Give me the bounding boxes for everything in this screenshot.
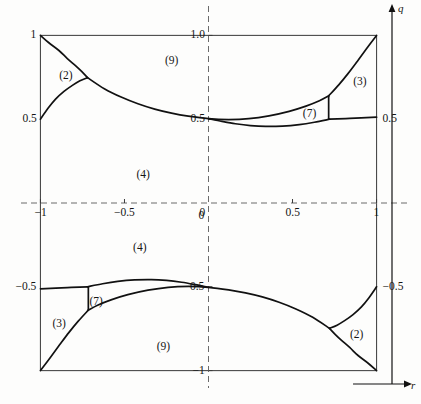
region-label-9: (2) <box>350 329 363 341</box>
region-diagram-figure: −1−0.500.511.00.50−0.5−110.5−0.50.5−0.5(… <box>0 0 421 404</box>
left-edge-label-2: −0.5 <box>15 281 36 293</box>
right-edge-label-1: −0.5 <box>383 281 404 293</box>
x-tick-label-4: 1 <box>374 207 380 219</box>
region-label-2: (3) <box>353 76 366 88</box>
x-tick-label-0: −1 <box>34 207 46 219</box>
left-edge-label-0: 1 <box>30 29 36 41</box>
y-tick-label-2: 0 <box>199 210 205 222</box>
region-label-8: (9) <box>157 341 170 353</box>
region-label-4: (4) <box>136 169 149 181</box>
y-tick-label-0: 1.0 <box>191 29 205 41</box>
curve-upper-left-ascending-branch <box>40 78 87 120</box>
curve-lower-right-descending-branch <box>330 287 377 329</box>
y-tick-label-1: 0.5 <box>191 113 205 125</box>
x-tick-label-3: 0.5 <box>286 207 300 219</box>
region-label-7: (3) <box>52 318 65 330</box>
curve-upper-right-edge-segment <box>330 117 377 119</box>
region-label-3: (7) <box>303 108 316 120</box>
plot-canvas <box>0 0 421 404</box>
right-edge-label-0: 0.5 <box>383 113 397 125</box>
y-axis-name: q <box>398 3 404 14</box>
curve-lower-left-edge-segment <box>40 287 87 289</box>
region-label-1: (9) <box>165 55 178 67</box>
region-label-5: (4) <box>133 242 146 254</box>
y-tick-label-4: −1 <box>193 365 205 377</box>
x-axis-name: r <box>411 380 415 391</box>
region-label-6: (7) <box>89 296 102 308</box>
region-label-0: (2) <box>59 70 72 82</box>
left-edge-label-1: 0.5 <box>22 113 36 125</box>
x-tick-label-1: −0.5 <box>114 207 135 219</box>
y-axis-arrowhead <box>389 4 396 12</box>
y-tick-label-3: −0.5 <box>184 281 205 293</box>
